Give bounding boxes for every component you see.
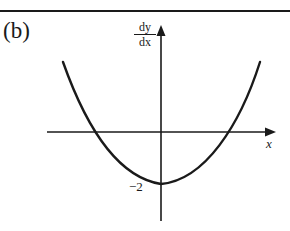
y-label-numerator: dy [134,21,156,35]
y-label-denominator: dx [134,35,156,48]
graph-figure: (b) dy dx x −2 [0,0,290,231]
x-axis-label: x [266,137,272,150]
panel-label: (b) [3,19,30,42]
y-axis-label: dy dx [134,21,156,48]
y-axis-arrow-icon [157,25,166,36]
y-intercept-label: −2 [129,180,143,193]
